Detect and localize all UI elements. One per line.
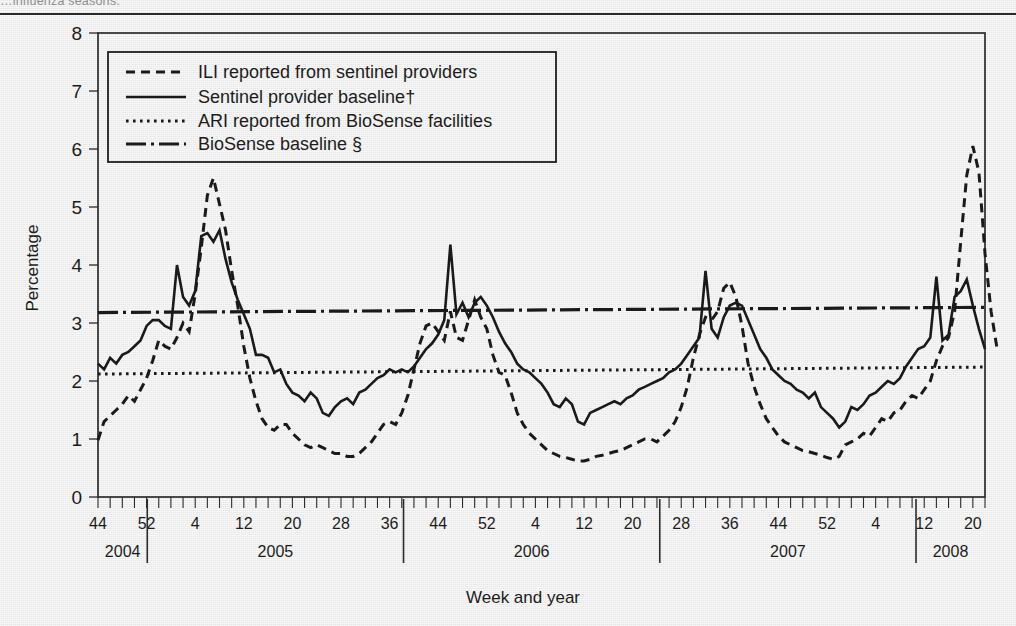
x-axis-week-labels: 44524122028364452412202836445241220	[89, 515, 982, 532]
x-week-label: 52	[478, 515, 496, 532]
year-label: 2006	[514, 543, 550, 560]
figure-page: …influenza seasons. 012345678 Percentage…	[0, 0, 1016, 626]
x-week-label: 44	[770, 515, 788, 532]
x-week-label: 12	[235, 515, 253, 532]
x-axis-ticks	[98, 497, 985, 508]
x-week-label: 36	[721, 515, 739, 532]
legend-label: ARI reported from BioSense facilities	[198, 111, 492, 131]
year-label: 2005	[258, 543, 294, 560]
y-tick-label: 1	[71, 429, 82, 450]
x-week-label: 52	[818, 515, 836, 532]
legend-label: Sentinel provider baseline†	[198, 87, 415, 107]
x-week-label: 44	[89, 515, 107, 532]
y-tick-label: 7	[71, 81, 82, 102]
x-week-label: 4	[871, 515, 880, 532]
y-tick-label: 3	[71, 313, 82, 334]
x-week-label: 28	[332, 515, 350, 532]
x-week-label: 20	[284, 515, 302, 532]
x-week-label: 36	[381, 515, 399, 532]
y-axis-tick-labels: 012345678	[71, 23, 82, 508]
y-tick-label: 5	[71, 197, 82, 218]
baseline-series-group	[98, 307, 985, 374]
baseline-dotted	[98, 367, 985, 374]
legend-label: BioSense baseline §	[198, 134, 362, 154]
x-week-label: 28	[672, 515, 690, 532]
y-tick-label: 6	[71, 139, 82, 160]
data-series-group	[98, 146, 997, 461]
y-axis-title: Percentage	[23, 225, 42, 312]
y-tick-label: 2	[71, 371, 82, 392]
x-week-label: 20	[624, 515, 642, 532]
y-tick-label: 0	[71, 487, 82, 508]
year-label: 2007	[770, 543, 806, 560]
x-week-label: 12	[915, 515, 933, 532]
x-week-label: 20	[964, 515, 982, 532]
legend-label: ILI reported from sentinel providers	[198, 62, 477, 82]
legend: ILI reported from sentinel providersSent…	[108, 52, 556, 162]
x-axis-year-labels: 20042005200620072008	[105, 543, 969, 560]
year-label: 2008	[933, 543, 969, 560]
y-tick-label: 8	[71, 23, 82, 44]
y-axis-ticks	[89, 33, 98, 497]
year-label: 2004	[105, 543, 141, 560]
baseline-dash-dot	[98, 307, 985, 312]
x-week-label: 4	[191, 515, 200, 532]
x-axis-title: Week and year	[466, 588, 580, 607]
line-chart: 012345678 Percentage 4452412202836445241…	[0, 0, 1016, 626]
x-week-label: 44	[429, 515, 447, 532]
x-week-label: 4	[531, 515, 540, 532]
series-dashed	[98, 146, 997, 461]
y-tick-label: 4	[71, 255, 82, 276]
x-week-label: 12	[575, 515, 593, 532]
